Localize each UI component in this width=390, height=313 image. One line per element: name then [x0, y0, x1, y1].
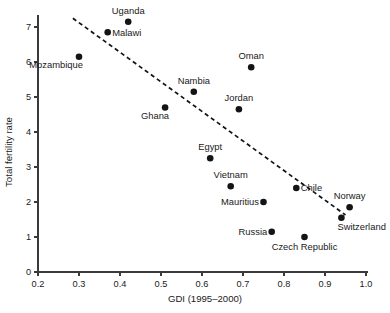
- data-point-label: Chile: [301, 182, 322, 193]
- data-point-dot: [248, 64, 255, 71]
- data-point-dot: [104, 29, 111, 36]
- y-tick-label: 7: [26, 22, 31, 32]
- y-tick-label: 5: [26, 92, 31, 102]
- data-point-dot: [338, 214, 345, 221]
- data-point-dot: [301, 234, 308, 241]
- x-tick-label: 0.5: [155, 279, 168, 289]
- data-point-label: Switzerland: [337, 221, 385, 232]
- y-tick-label: 3: [26, 162, 31, 172]
- data-point-dot: [207, 155, 214, 162]
- y-tick-label: 2: [26, 197, 31, 207]
- data-point-dot: [293, 185, 300, 192]
- y-tick-label: 0: [26, 267, 31, 277]
- x-tick-label: 0.2: [32, 279, 45, 289]
- data-point-dot: [236, 106, 243, 113]
- data-point-dot: [125, 18, 132, 25]
- data-point-label: Norway: [334, 190, 366, 201]
- chart-canvas: 012345670.20.30.40.50.60.70.80.91.0 Ugan…: [0, 0, 390, 313]
- x-tick-label: 0.6: [196, 279, 209, 289]
- data-point-label: Russia: [239, 226, 268, 237]
- x-tick-label: 0.4: [114, 279, 127, 289]
- scatter-plot-figure: 012345670.20.30.40.50.60.70.80.91.0 Ugan…: [0, 0, 390, 313]
- y-axis-title: Total fertility rate: [3, 117, 14, 187]
- data-point-label: Ghana: [141, 110, 170, 121]
- data-point-dot: [268, 228, 275, 235]
- y-tick-label: 1: [26, 232, 31, 242]
- data-point-label: Mozambique: [29, 59, 83, 70]
- x-tick-label: 0.3: [73, 279, 86, 289]
- data-point-labels: UgandaMalawiMozambiqueOmanNambiaGhanaJor…: [29, 5, 386, 252]
- data-point-label: Egypt: [198, 141, 222, 152]
- x-tick-label: 0.9: [319, 279, 332, 289]
- data-point-label: Uganda: [112, 5, 146, 16]
- data-point-label: Mauritius: [221, 196, 259, 207]
- data-point-label: Nambia: [178, 75, 211, 86]
- data-point-label: Malawi: [112, 27, 141, 38]
- data-point-dot: [260, 199, 267, 206]
- x-tick-label: 0.7: [237, 279, 250, 289]
- data-point-label: Czech Republic: [272, 241, 338, 252]
- y-tick-label: 4: [26, 127, 31, 137]
- x-axis-title: GDI (1995–2000): [168, 293, 242, 304]
- data-point-label: Vietnam: [214, 169, 248, 180]
- data-point-dot: [346, 204, 353, 211]
- data-point-label: Oman: [238, 50, 264, 61]
- x-tick-label: 0.8: [278, 279, 291, 289]
- data-point-dot: [227, 183, 234, 190]
- x-tick-label: 1.0: [360, 279, 373, 289]
- data-point-dot: [191, 88, 198, 95]
- data-points: [76, 18, 353, 240]
- data-point-label: Jordan: [225, 92, 254, 103]
